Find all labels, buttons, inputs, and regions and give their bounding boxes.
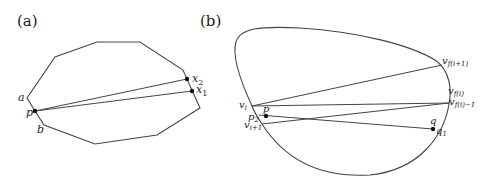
point-p [264,114,268,118]
label-x1: x1 [196,83,207,98]
label-p: p [26,106,33,119]
panel-b: (b) vi p p2 vi+1 q q1 vf(i+1) vf(i) vf(i… [200,12,475,175]
convex-curve [235,27,450,175]
label-vfi1: vf(i+1) [442,55,469,68]
label-p2: p2 [248,111,259,124]
point-p [33,109,37,113]
point-x2 [185,77,189,81]
label-a: a [18,91,25,104]
point-x1 [190,89,194,93]
point-q [431,127,435,131]
segment-p2-q1 [259,115,433,129]
segment-vi1-vfim1 [262,103,449,124]
label-p: p [263,103,270,114]
panel-a: (a) a p b x2 x1 [17,12,207,144]
label-b: b [37,123,44,136]
segment-vi-vfi1 [252,65,442,106]
label-vi: vi [239,99,247,112]
figure: (a) a p b x2 x1 (b) vi p p2 vi+1 q q1 vf… [0,0,491,184]
label-q1: q1 [436,125,447,138]
caption-a: (a) [17,12,38,30]
segment-vi-vfim1 [252,103,449,106]
caption-b: (b) [200,12,221,30]
